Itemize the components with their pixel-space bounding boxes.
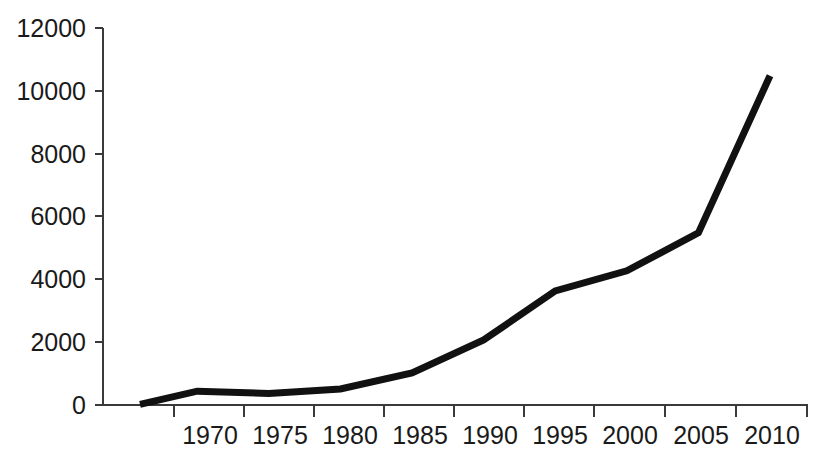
- y-tick-label-8000: 8000: [30, 140, 86, 168]
- x-tick-label-2000: 2000: [602, 421, 658, 449]
- x-tick-label-1980: 1980: [322, 421, 378, 449]
- x-axis-tick-labels: 1970 1975 1980 1985 1990 1995 2000 2005 …: [182, 421, 800, 449]
- x-tick-label-1970: 1970: [182, 421, 238, 449]
- x-tick-label-1975: 1975: [252, 421, 308, 449]
- x-tick-label-1995: 1995: [532, 421, 588, 449]
- y-tick-label-4000: 4000: [30, 265, 86, 293]
- y-tick-label-10000: 10000: [16, 77, 86, 105]
- x-tick-label-2005: 2005: [673, 421, 729, 449]
- x-tick-label-1985: 1985: [392, 421, 448, 449]
- y-tick-label-2000: 2000: [30, 328, 86, 356]
- x-tick-label-1990: 1990: [462, 421, 518, 449]
- chart-background: [0, 0, 836, 461]
- line-chart-figure: 0 2000 4000 6000 8000 10000 12000 1970 1…: [0, 0, 836, 461]
- x-tick-label-2010: 2010: [744, 421, 800, 449]
- y-tick-label-0: 0: [72, 391, 86, 419]
- y-tick-label-12000: 12000: [16, 14, 86, 42]
- chart-canvas: 0 2000 4000 6000 8000 10000 12000 1970 1…: [0, 0, 836, 461]
- y-tick-label-6000: 6000: [30, 202, 86, 230]
